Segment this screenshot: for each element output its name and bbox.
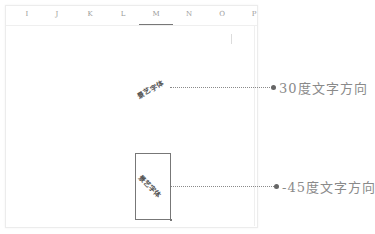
callout-label-30: 30度文字方向 [279, 78, 368, 97]
cell-cursor [231, 34, 232, 44]
column-header-p[interactable]: P [237, 10, 271, 18]
column-header-j[interactable]: J [40, 10, 74, 18]
callout-label-45: -45度文字方向 [282, 177, 375, 196]
column-header-k[interactable]: K [73, 10, 107, 18]
callout-dot-icon [271, 85, 276, 90]
column-header-o[interactable]: O [205, 10, 239, 18]
column-header-i[interactable]: I [10, 10, 44, 18]
column-header-m[interactable]: M [139, 10, 173, 25]
column-header-row: I J K L M N O P [6, 6, 257, 26]
resize-handle[interactable] [170, 219, 172, 221]
leader-line-45 [171, 186, 274, 187]
leader-line-30 [170, 87, 272, 88]
column-header-n[interactable]: N [172, 10, 206, 18]
callout-dot-icon [274, 184, 279, 189]
grid-line [254, 26, 255, 226]
column-header-l[interactable]: L [106, 10, 140, 18]
spreadsheet-area: I J K L M N O P [5, 5, 258, 228]
